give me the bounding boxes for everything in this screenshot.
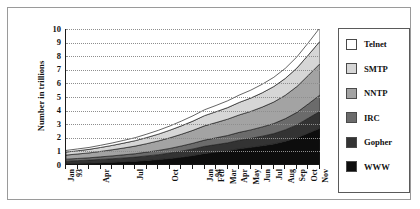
x-axis-tick-label: Oct (311, 169, 319, 181)
x-axis-tick-label: Mar (230, 169, 238, 184)
legend-item-irc[interactable]: IRC (346, 112, 380, 124)
x-axis-tick-label-line: Apr (241, 169, 249, 183)
x-axis-tick-label: Feb (218, 169, 226, 182)
chart-legend: TelnetSMTPNNTPIRCGopherWWW (338, 28, 410, 193)
legend-swatch-nntp (346, 88, 357, 99)
y-axis-tick-label: 4 (43, 106, 61, 115)
legend-label: NNTP (364, 88, 387, 98)
legend-swatch-www (346, 161, 357, 172)
legend-swatch-gopher (346, 137, 357, 148)
y-axis-tick-label: 8 (43, 52, 61, 61)
legend-swatch-irc (346, 112, 357, 123)
x-axis-tick-label: Sep (299, 169, 307, 181)
x-axis-tick-label-line: Jul (276, 169, 284, 180)
y-axis-tick-label: 6 (43, 79, 61, 88)
plot-area (65, 29, 319, 165)
legend-swatch-telnet (346, 39, 357, 50)
y-axis-tick-label: 2 (43, 133, 61, 142)
x-axis-tick-label: Nov (322, 169, 330, 183)
chart-screenshot: Number in trillions 012345678910 Jan93Ap… (0, 0, 420, 209)
x-axis-tick-label-line: Jun (264, 169, 272, 182)
x-axis-tick-label-line: Nov (322, 169, 330, 183)
y-axis-tick-label: 0 (43, 161, 61, 170)
legend-item-gopher[interactable]: Gopher (346, 136, 392, 148)
gridline (66, 83, 320, 84)
gridline (66, 70, 320, 71)
gridline (66, 29, 320, 30)
x-axis-tick-label: Apr (241, 169, 249, 183)
legend-item-nntp[interactable]: NNTP (346, 87, 387, 99)
x-axis-tick-label-line: Feb (218, 169, 226, 182)
x-axis-tick-label-line: Aug (288, 169, 296, 183)
x-axis-tick-label: Jun (264, 169, 272, 182)
x-axis-tick-label: Jul (276, 169, 284, 180)
x-axis-tick-label-line: Jul (137, 169, 145, 180)
x-axis-tick-label-line: May (253, 169, 261, 185)
y-axis-tick-label: 7 (43, 65, 61, 74)
gridline (66, 56, 320, 57)
x-axis-tick-label: Apr (103, 169, 111, 183)
x-axis-tick-label-line: Oct (172, 169, 180, 181)
legend-label: Telnet (364, 39, 387, 49)
x-axis-tick-label: Aug (288, 169, 296, 183)
gridline (66, 111, 320, 112)
gridline (66, 151, 320, 152)
legend-label: SMTP (364, 64, 388, 74)
legend-label: Gopher (364, 137, 392, 147)
gridline (66, 97, 320, 98)
y-axis-title-container: Number in trillions (22, 29, 40, 165)
y-axis-tick-label: 10 (43, 25, 61, 34)
y-axis-tick-label: 9 (43, 38, 61, 47)
chart-frame: Number in trillions 012345678910 Jan93Ap… (7, 7, 411, 200)
y-axis-tick-label: 1 (43, 147, 61, 156)
x-axis-tick-label: Oct (172, 169, 180, 181)
legend-label: WWW (364, 162, 390, 172)
y-axis-tick-label: 5 (43, 93, 61, 102)
x-axis-tick-label-line: Mar (230, 169, 238, 184)
legend-swatch-smtp (346, 63, 357, 74)
gridline (66, 43, 320, 44)
y-axis-tick-labels: 012345678910 (41, 29, 61, 165)
gridline (66, 124, 320, 125)
x-axis-tick-label-line: Apr (103, 169, 111, 183)
legend-item-www[interactable]: WWW (346, 161, 390, 173)
y-axis-tick-label: 3 (43, 120, 61, 129)
legend-label: IRC (364, 113, 380, 123)
legend-item-telnet[interactable]: Telnet (346, 38, 387, 50)
x-axis-tick-label-line: Oct (311, 169, 319, 181)
x-axis-tick-label-line: 93 (76, 169, 84, 181)
gridline (66, 138, 320, 139)
x-axis-tick-label: May (253, 169, 261, 185)
legend-item-smtp[interactable]: SMTP (346, 63, 388, 75)
x-axis-tick-labels: Jan93AprJulOctJan94FebMarAprMayJunJulAug… (65, 169, 323, 205)
x-axis-tick-label: Jan93 (68, 169, 84, 181)
x-axis-tick-label-line: Sep (299, 169, 307, 181)
x-axis-tick-label: Jul (137, 169, 145, 180)
